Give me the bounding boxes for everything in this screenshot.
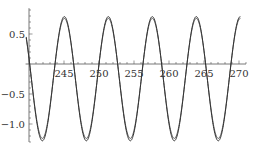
y-tick-label: −0.5 <box>1 89 25 100</box>
y-tick-label: −1.0 <box>1 119 25 130</box>
x-tick-label: 255 <box>124 68 143 79</box>
y-tick-labels: 0.5−0.5−1.0 <box>1 29 25 130</box>
x-tick-label: 250 <box>89 68 108 79</box>
y-tick-label: 0.5 <box>9 29 25 40</box>
x-tick-label: 270 <box>229 68 248 79</box>
line-chart: 245250255260265270 0.5−0.5−1.0 <box>0 0 255 151</box>
x-tick-label: 245 <box>54 68 73 79</box>
x-tick-labels: 245250255260265270 <box>54 68 248 79</box>
x-tick-label: 265 <box>194 68 213 79</box>
